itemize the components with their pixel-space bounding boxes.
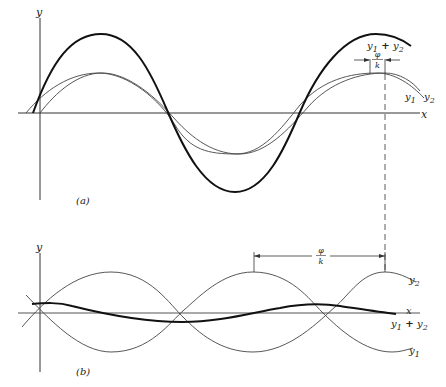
panel-a-y2-label: y2	[423, 91, 435, 105]
panel-a-label: (a)	[76, 195, 90, 206]
svg-text:k: k	[375, 61, 380, 70]
panel-b-sum-label: y1 + y2	[390, 318, 428, 332]
panel-a-y1-label: y1	[404, 91, 416, 105]
panel-b-label: (b)	[76, 366, 90, 377]
panel-b-x-label: x	[406, 305, 412, 316]
panel-b-curve-y2	[22, 272, 416, 352]
wave-superposition-diagram: y x y1 + y2 y1 y2 φ k (a) y	[0, 0, 446, 387]
panel-b: y x y2 y1 + y2 y1 φ k (b)	[18, 241, 428, 377]
panel-b-phase-annotation: φ k	[254, 246, 385, 272]
panel-a-x-label: x	[421, 108, 428, 121]
panel-b-y2-label: y2	[408, 274, 420, 288]
panel-b-y1-label: y1	[408, 345, 420, 359]
panel-a: y x y1 + y2 y1 y2 φ k (a)	[18, 6, 435, 206]
panel-b-curve-y1	[26, 272, 413, 352]
panel-a-phase-annotation: φ k	[354, 50, 400, 74]
panel-a-sum-label: y1 + y2	[366, 40, 404, 54]
panel-b-y-label: y	[35, 241, 43, 254]
svg-text:φ: φ	[318, 246, 324, 255]
svg-text:k: k	[319, 257, 324, 266]
svg-text:φ: φ	[375, 50, 381, 59]
panel-a-y-label: y	[35, 6, 43, 19]
